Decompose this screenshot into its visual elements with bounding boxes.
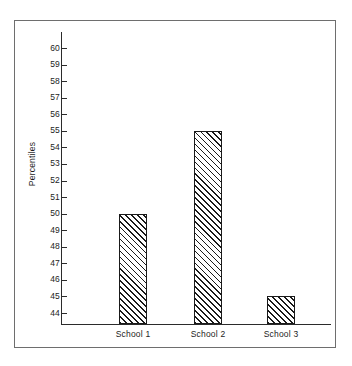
y-axis-tick — [62, 131, 67, 132]
y-axis-tick — [62, 181, 67, 182]
y-axis-tick-label: 53 — [30, 159, 60, 168]
y-axis-tick — [62, 81, 67, 82]
y-axis-tick-label: 45 — [30, 292, 60, 301]
y-axis-tick — [62, 280, 67, 281]
bar — [119, 214, 147, 324]
y-axis-tick — [62, 263, 67, 264]
y-axis-tick — [62, 114, 67, 115]
y-axis-tick-label: 51 — [30, 193, 60, 202]
y-axis-tick-label: 57 — [30, 93, 60, 102]
y-axis-tick — [62, 48, 67, 49]
x-axis-category-label: School 3 — [241, 329, 321, 339]
y-axis-tick-label: 50 — [30, 209, 60, 218]
x-axis-baseline — [61, 324, 331, 325]
y-axis-tick-label: 47 — [30, 259, 60, 268]
bar-chart-plot-area: Percentiles 6059585756555453525150494847… — [15, 21, 337, 349]
bar — [194, 131, 222, 324]
y-axis-tick-label: 49 — [30, 226, 60, 235]
y-axis-tick-label: 52 — [30, 176, 60, 185]
y-axis-tick — [62, 197, 67, 198]
y-axis-tick — [62, 164, 67, 165]
y-axis-line — [61, 32, 62, 325]
y-axis-tick-label: 54 — [30, 143, 60, 152]
y-axis-tick-label: 56 — [30, 110, 60, 119]
y-axis-tick-label: 44 — [30, 309, 60, 318]
y-axis-tick-label: 46 — [30, 275, 60, 284]
bar — [267, 296, 295, 324]
y-axis-tick — [62, 147, 67, 148]
y-axis-tick-label: 55 — [30, 126, 60, 135]
y-axis-tick — [62, 214, 67, 215]
y-axis-tick-label: 58 — [30, 77, 60, 86]
y-axis-tick — [62, 247, 67, 248]
y-axis-tick-label: 59 — [30, 60, 60, 69]
y-axis-tick — [62, 98, 67, 99]
y-axis-tick-label: 48 — [30, 242, 60, 251]
chart-frame: Percentiles 6059585756555453525150494847… — [14, 20, 336, 348]
y-axis-tick-label: 60 — [30, 44, 60, 53]
y-axis-tick — [62, 230, 67, 231]
x-axis-category-label: School 1 — [93, 329, 173, 339]
y-axis-tick — [62, 313, 67, 314]
y-axis-tick — [62, 65, 67, 66]
x-axis-category-label: School 2 — [168, 329, 248, 339]
y-axis-tick — [62, 296, 67, 297]
